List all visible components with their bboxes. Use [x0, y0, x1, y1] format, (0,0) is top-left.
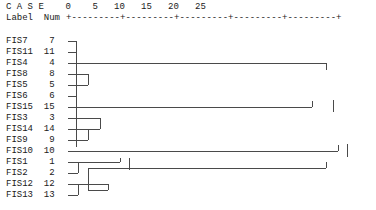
- dendrogram-page: C A S E 0 5 10 15 20 25 Label Num +-----…: [0, 0, 376, 210]
- dendrogram-tree: [0, 0, 376, 210]
